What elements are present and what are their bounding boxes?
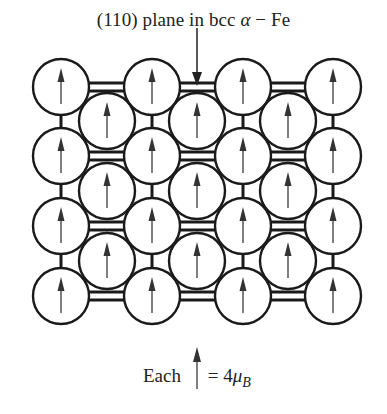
body-center-atom — [169, 93, 225, 149]
caption-subscript: B — [242, 375, 251, 390]
corner-atom — [33, 198, 89, 254]
corner-atom — [124, 268, 180, 324]
body-center-atom — [260, 233, 316, 289]
caption-equals: = 4 — [208, 365, 233, 386]
corner-atom — [215, 198, 271, 254]
body-center-atom — [169, 163, 225, 219]
body-center-atom — [79, 93, 135, 149]
body-center-atom — [260, 93, 316, 149]
caption-mu: μ — [233, 365, 243, 386]
corner-atom — [305, 128, 361, 184]
corner-atom — [33, 268, 89, 324]
corner-atom — [215, 128, 271, 184]
body-center-atom — [260, 163, 316, 219]
bcc-lattice-diagram — [0, 0, 387, 414]
body-center-atom — [169, 233, 225, 289]
corner-atom — [33, 128, 89, 184]
corner-atom — [124, 198, 180, 254]
corner-atom — [305, 268, 361, 324]
corner-atom — [33, 59, 89, 115]
corner-atom — [305, 198, 361, 254]
lattice-atoms — [33, 59, 361, 324]
corner-atom — [215, 268, 271, 324]
pointer-arrow-icon — [192, 28, 202, 86]
caption: Each = 4μB — [143, 365, 251, 391]
body-center-atom — [79, 163, 135, 219]
body-center-atom — [79, 233, 135, 289]
caption-each: Each — [143, 365, 181, 386]
corner-atom — [124, 128, 180, 184]
